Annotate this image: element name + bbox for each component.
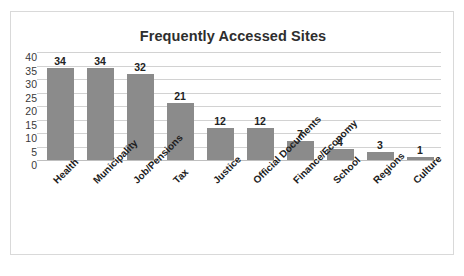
y-tick-label: 35 (11, 66, 37, 76)
y-tick-label: 5 (11, 147, 37, 157)
y-axis: 40 35 30 25 20 15 10 5 0 (11, 52, 37, 172)
x-tick-label: Tax (171, 166, 190, 185)
bar[interactable] (247, 128, 274, 160)
bar-value-label: 3 (360, 140, 400, 150)
y-tick-label: 15 (11, 120, 37, 130)
bar-value-label: 21 (160, 91, 200, 101)
plot-area: 34 34 32 21 12 12 7 4 3 1 (37, 52, 441, 160)
bar-value-label: 34 (40, 56, 80, 66)
bar-value-label: 34 (80, 56, 120, 66)
y-tick-label: 30 (11, 79, 37, 89)
bar-column[interactable] (247, 52, 274, 160)
bar-column[interactable] (87, 52, 114, 160)
y-tick-label: 0 (11, 160, 37, 170)
bar[interactable] (87, 68, 114, 160)
chart-title: Frequently Accessed Sites (11, 28, 455, 44)
bar-column[interactable] (47, 52, 74, 160)
bar[interactable] (207, 128, 234, 160)
x-axis-categories: Health Municipality Job/Pensions Tax Jus… (37, 174, 457, 264)
y-tick-label: 40 (11, 52, 37, 62)
y-tick-label: 25 (11, 93, 37, 103)
y-tick-label: 10 (11, 133, 37, 143)
bar-value-label: 32 (120, 62, 160, 72)
bar-value-label: 12 (240, 116, 280, 126)
chart-card: Frequently Accessed Sites 40 35 30 25 20… (10, 11, 454, 255)
bar-column[interactable] (207, 52, 234, 160)
y-tick-label: 20 (11, 106, 37, 116)
bar-value-label: 12 (200, 116, 240, 126)
bar[interactable] (47, 68, 74, 160)
